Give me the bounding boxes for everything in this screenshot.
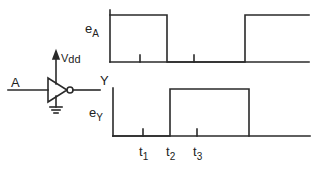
eA-label: eA — [85, 22, 99, 35]
eY-label-sub: Y — [96, 112, 103, 123]
t3-sub: 3 — [197, 151, 203, 162]
eY-waveform-panel — [113, 88, 310, 136]
eA-label-sub: A — [92, 28, 99, 39]
input-label-a: A — [11, 76, 20, 89]
t2-sub: 2 — [170, 151, 176, 162]
t1-sub: 1 — [143, 151, 149, 162]
inverter-circuit — [8, 51, 100, 113]
inverter-gate-icon — [48, 78, 67, 102]
output-label-y: Y — [100, 74, 109, 87]
supply-arrow-icon — [53, 51, 59, 59]
inverter-timing-diagram — [0, 0, 315, 169]
eY-label: eY — [89, 106, 103, 119]
time-marker-t3: t3 — [193, 145, 202, 158]
inversion-bubble-icon — [67, 87, 73, 93]
time-marker-t1: t1 — [139, 145, 148, 158]
eA-waveform-panel — [110, 10, 309, 62]
time-marker-t2: t2 — [166, 145, 175, 158]
supply-label-sub: dd — [68, 53, 80, 65]
ground-icon — [50, 107, 62, 113]
eY-signal — [113, 89, 249, 136]
supply-label-vdd: Vdd — [61, 53, 81, 64]
